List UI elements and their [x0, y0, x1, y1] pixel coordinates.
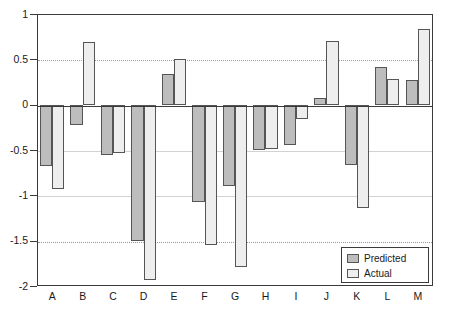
- y-axis-label: -2: [19, 281, 28, 292]
- chart-legend: Predicted Actual: [341, 247, 429, 283]
- legend-swatch-actual-icon: [347, 269, 359, 278]
- x-axis-label-j: J: [311, 291, 341, 302]
- bar-b-actual: [83, 42, 95, 105]
- zero-baseline: [38, 106, 432, 107]
- legend-label-actual: Actual: [364, 269, 392, 279]
- y-axis-tick: [30, 14, 37, 15]
- x-axis-label-k: K: [342, 291, 372, 302]
- y-axis-label: -0.5: [10, 145, 28, 156]
- bar-i-predicted: [284, 105, 296, 146]
- bar-c-actual: [113, 105, 125, 153]
- bar-g-actual: [235, 105, 247, 267]
- y-axis-label: -1.5: [10, 235, 28, 246]
- x-axis-label-f: F: [190, 291, 220, 302]
- bar-e-actual: [174, 59, 186, 104]
- bar-m-actual: [418, 29, 430, 104]
- bar-a-predicted: [40, 105, 52, 167]
- y-axis-label: 0.5: [13, 54, 28, 65]
- bar-a-actual: [52, 105, 64, 189]
- y-axis-label: -1: [19, 190, 28, 201]
- bar-j-actual: [326, 41, 338, 104]
- bars-layer: [37, 14, 433, 286]
- bar-l-actual: [387, 79, 399, 104]
- legend-swatch-predicted-icon: [347, 254, 359, 263]
- y-axis-tick: [30, 105, 37, 106]
- bar-h-predicted: [253, 105, 265, 150]
- cropped-title-strip: [0, 0, 470, 6]
- bar-j-predicted: [314, 98, 326, 104]
- x-axis-label-c: C: [98, 291, 128, 302]
- x-axis-label-g: G: [220, 291, 250, 302]
- x-axis-label-h: H: [250, 291, 280, 302]
- y-axis-tick: [30, 241, 37, 242]
- bar-c-predicted: [101, 105, 113, 155]
- y-axis-tick: [30, 195, 37, 196]
- x-axis-label-d: D: [129, 291, 159, 302]
- bar-k-actual: [357, 105, 369, 208]
- x-axis-label-b: B: [68, 291, 98, 302]
- bar-d-actual: [144, 105, 156, 280]
- bar-f-predicted: [192, 105, 204, 202]
- bar-l-predicted: [375, 67, 387, 104]
- y-axis-tick: [30, 286, 37, 287]
- bar-f-actual: [205, 105, 217, 246]
- y-axis-label: 1: [22, 9, 28, 20]
- x-axis-label-e: E: [159, 291, 189, 302]
- bar-chart: 10.50-0.5-1-1.5-2 ABCDEFGHIJKLM Predicte…: [0, 0, 470, 318]
- x-axis-label-a: A: [37, 291, 67, 302]
- legend-item-predicted: Predicted: [347, 251, 428, 266]
- bar-e-predicted: [162, 74, 174, 105]
- x-axis-label-m: M: [403, 291, 433, 302]
- bar-d-predicted: [131, 105, 143, 241]
- x-axis-label-i: I: [281, 291, 311, 302]
- legend-item-actual: Actual: [347, 266, 428, 281]
- bar-i-actual: [296, 105, 308, 120]
- bar-k-predicted: [345, 105, 357, 166]
- legend-label-predicted: Predicted: [364, 254, 406, 264]
- bar-h-actual: [265, 105, 277, 149]
- y-axis-tick: [30, 59, 37, 60]
- bar-g-predicted: [223, 105, 235, 187]
- y-axis-tick: [30, 150, 37, 151]
- bar-b-predicted: [70, 105, 82, 125]
- x-axis-label-l: L: [372, 291, 402, 302]
- y-axis-label: 0: [22, 99, 28, 110]
- bar-m-predicted: [406, 80, 418, 104]
